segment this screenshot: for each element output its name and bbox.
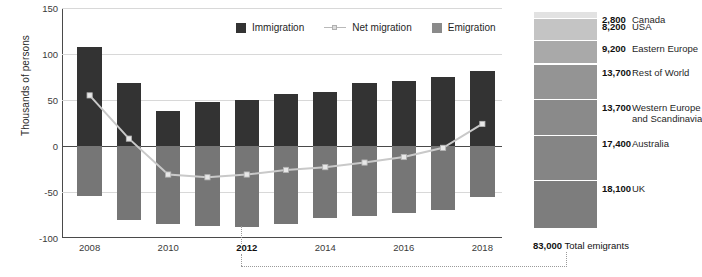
legend-swatch-line-icon — [324, 23, 346, 33]
net-migration-line — [62, 8, 502, 238]
plot-area — [62, 8, 502, 238]
stacked-segment — [534, 100, 597, 136]
x-tick-label: 2018 — [472, 242, 493, 253]
stacked-segment — [534, 136, 597, 181]
x-tick-label: 2010 — [158, 242, 179, 253]
stacked-segment-label: 8,200USA — [602, 21, 652, 32]
connector-vertical-upper — [241, 226, 242, 244]
stacked-segment — [534, 41, 597, 65]
net-migration-marker — [166, 172, 171, 177]
x-tick-label: 2016 — [393, 242, 414, 253]
segment-name: Australia — [632, 138, 669, 149]
segment-value: 8,200 — [602, 21, 632, 32]
total-emigrants-label: Total emigrants — [565, 240, 629, 251]
stacked-segment — [534, 19, 597, 40]
segment-name: UK — [632, 183, 645, 194]
stacked-segment — [534, 12, 597, 19]
connector-vertical-right — [566, 252, 567, 267]
stacked-segment-label: 18,100UK — [602, 183, 645, 194]
segment-value: 18,100 — [602, 183, 632, 194]
y-tick-label: -100 — [24, 233, 58, 244]
y-tick-label: -50 — [24, 187, 58, 198]
y-tick-label: 50 — [24, 95, 58, 106]
legend-swatch-dark-icon — [236, 23, 246, 33]
stacked-segment — [534, 181, 597, 228]
segment-value: 13,700 — [602, 67, 632, 78]
x-tick-label: 2014 — [315, 242, 336, 253]
segment-name: USA — [632, 21, 652, 32]
legend-item: Net migration — [324, 22, 411, 33]
legend-swatch-gray-icon — [432, 23, 442, 33]
net-migration-marker — [323, 165, 328, 170]
y-tick-label: 0 — [24, 141, 58, 152]
segment-name: Eastern Europe — [632, 43, 698, 54]
net-migration-marker — [440, 145, 445, 150]
stacked-segment-label: 17,400Australia — [602, 138, 669, 149]
net-migration-marker — [126, 136, 131, 141]
net-migration-marker — [401, 154, 406, 159]
net-migration-marker — [244, 172, 249, 177]
stacked-segment — [534, 65, 597, 101]
y-tick-label: 150 — [24, 3, 58, 14]
total-emigrants: 83,000 Total emigrants — [533, 240, 629, 251]
stacked-emigrants-bar — [534, 12, 597, 228]
net-migration-marker — [283, 167, 288, 172]
segment-value: 17,400 — [602, 138, 632, 149]
legend-label: Emigration — [448, 22, 496, 33]
y-tick-label: 100 — [24, 49, 58, 60]
net-migration-marker — [205, 175, 210, 180]
stacked-segment-label: 13,700Western Europeand Scandinavia — [602, 102, 702, 124]
y-axis-ticks: 150100500-50-100 — [22, 0, 58, 240]
legend-item: Immigration — [236, 22, 304, 33]
stacked-segment-label: 9,200Eastern Europe — [602, 43, 698, 54]
connector-vertical-lower — [241, 254, 242, 266]
legend-label: Immigration — [252, 22, 304, 33]
net-migration-marker — [480, 121, 485, 126]
segment-name: Rest of World — [632, 67, 689, 78]
segment-value: 9,200 — [602, 43, 632, 54]
segment-value: 13,700 — [602, 102, 632, 113]
net-migration-marker — [87, 93, 92, 98]
chart-legend: ImmigrationNet migrationEmigration — [236, 22, 496, 33]
connector-horizontal — [241, 266, 567, 267]
total-emigrants-value: 83,000 — [533, 240, 562, 251]
x-tick-label: 2008 — [79, 242, 100, 253]
stacked-segment-label: 13,700Rest of World — [602, 67, 689, 78]
net-migration-polyline — [90, 95, 483, 177]
x-tick-label: 2012 — [236, 242, 257, 253]
legend-item: Emigration — [432, 22, 496, 33]
net-migration-marker — [362, 160, 367, 165]
legend-label: Net migration — [352, 22, 411, 33]
